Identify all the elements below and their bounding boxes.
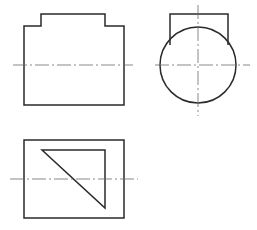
- projection-drawing: [0, 0, 257, 230]
- front-view: [13, 14, 133, 105]
- side-view: [155, 5, 250, 116]
- side-view-boss-outline: [170, 14, 228, 45]
- top-view-triangle: [42, 150, 105, 208]
- top-view: [10, 140, 138, 218]
- front-view-outline: [24, 14, 124, 105]
